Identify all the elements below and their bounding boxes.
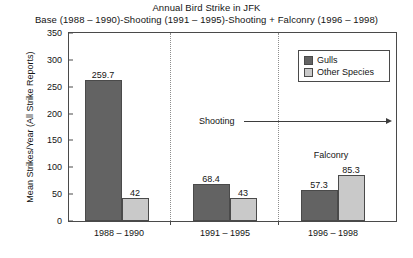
group-separator-2 — [278, 33, 279, 221]
bar-other-1988-1990[interactable] — [122, 198, 149, 221]
group-separator-1 — [170, 33, 171, 221]
bar-value-gulls-1988-1990: 259.7 — [92, 70, 115, 80]
x-tick-label-1988-1990: 1988 – 1990 — [94, 228, 144, 238]
y-tick-label-300: 300 — [47, 55, 69, 65]
x-tick-mark-1 — [170, 221, 171, 225]
y-tick-label-250: 250 — [47, 82, 69, 92]
y-tick-label-350: 350 — [47, 28, 69, 38]
annotation-shooting-arrow-line — [244, 121, 386, 122]
bird-strike-chart-screenshot: Annual Bird Strike in JFK Base (1988 – 1… — [0, 0, 413, 258]
annotation-shooting-label: Shooting — [199, 116, 235, 126]
legend-label-other-species: Other Species — [317, 67, 374, 78]
chart-title: Annual Bird Strike in JFK — [0, 2, 413, 14]
y-axis-title: Mean Strikes/Year (All Strike Reports) — [25, 27, 35, 227]
bar-value-other-1991-1995: 43 — [238, 188, 248, 198]
y-tick-label-200: 200 — [47, 109, 69, 119]
legend-swatch-other-species-icon — [304, 68, 313, 77]
y-tick-label-100: 100 — [47, 162, 69, 172]
y-tick-label-50: 50 — [52, 189, 69, 199]
chart-title-block: Annual Bird Strike in JFK Base (1988 – 1… — [0, 2, 413, 26]
bar-value-gulls-1991-1995: 68.4 — [202, 174, 220, 184]
bar-gulls-1996-1998[interactable] — [301, 190, 338, 221]
bar-value-gulls-1996-1998: 57.3 — [310, 180, 328, 190]
bar-value-other-1996-1998: 85.3 — [342, 165, 360, 175]
bar-other-1996-1998[interactable] — [338, 175, 365, 221]
x-tick-label-1991-1995: 1991 – 1995 — [200, 228, 250, 238]
legend-swatch-gulls-icon — [304, 56, 313, 65]
bar-other-1991-1995[interactable] — [230, 198, 257, 221]
x-tick-mark-2 — [278, 221, 279, 225]
chart-subtitle: Base (1988 – 1990)-Shooting (1991 – 1995… — [0, 14, 413, 26]
annotation-shooting-arrow-head — [386, 118, 392, 124]
y-tick-label-0: 0 — [57, 216, 69, 226]
bar-gulls-1988-1990[interactable] — [85, 80, 122, 221]
bar-gulls-1991-1995[interactable] — [193, 184, 230, 221]
legend-item-gulls[interactable]: Gulls — [304, 54, 385, 66]
legend-item-other-species[interactable]: Other Species — [304, 66, 385, 78]
y-tick-label-150: 150 — [47, 135, 69, 145]
chart-legend: Gulls Other Species — [298, 50, 390, 82]
bar-value-other-1988-1990: 42 — [130, 188, 140, 198]
legend-label-gulls: Gulls — [317, 55, 338, 66]
x-tick-label-1996-1998: 1996 – 1998 — [308, 228, 358, 238]
annotation-falconry-label: Falconry — [314, 150, 349, 160]
